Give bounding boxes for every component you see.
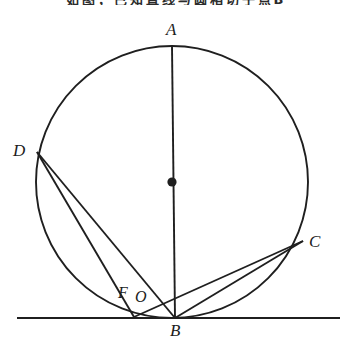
center-point-dot [167,177,176,186]
point-label-F: F [118,285,128,301]
segment-BC [175,241,303,318]
point-label-C: C [309,233,320,250]
geometry-diagram-svg [0,0,352,349]
point-label-D: D [13,142,25,159]
geometry-figure: 如图，已知直线与圆相切于点B A B C D F O [0,0,352,349]
point-label-B: B [170,322,180,339]
point-label-A: A [166,21,176,38]
segment-FC [134,241,303,317]
point-label-O: O [135,289,147,305]
segment-DB [37,152,175,318]
